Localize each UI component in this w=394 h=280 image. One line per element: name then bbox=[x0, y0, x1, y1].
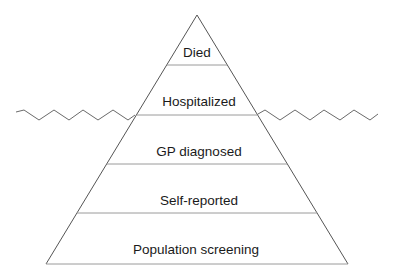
tier-label-population-screening: Population screening bbox=[133, 242, 259, 257]
tier-label-hospitalized: Hospitalized bbox=[162, 94, 236, 109]
tier-label-gp-diagnosed: GP diagnosed bbox=[156, 144, 241, 159]
pyramid-right-edge bbox=[197, 15, 348, 264]
waterline-right-wave bbox=[258, 110, 378, 120]
tier-label-died: Died bbox=[183, 45, 211, 60]
tier-label-self-reported: Self-reported bbox=[160, 193, 238, 208]
iceberg-pyramid-diagram: Died Hospitalized GP diagnosed Self-repo… bbox=[0, 0, 394, 280]
waterline-left-wave bbox=[16, 110, 135, 120]
pyramid-left-edge bbox=[46, 15, 197, 264]
